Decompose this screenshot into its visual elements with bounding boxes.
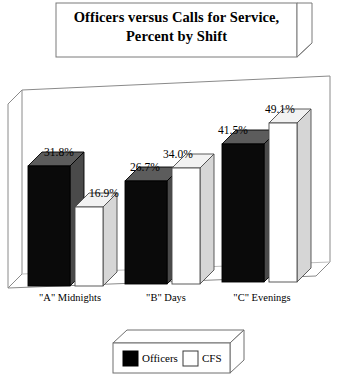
- legend-swatch-cfs: [183, 351, 198, 366]
- legend-label-officers: Officers: [142, 352, 178, 364]
- chart-root: Officers versus Calls for Service, Perce…: [0, 0, 345, 379]
- legend-swatches: [0, 0, 345, 379]
- legend-swatch-officers: [123, 351, 138, 366]
- legend-label-cfs: CFS: [202, 352, 222, 364]
